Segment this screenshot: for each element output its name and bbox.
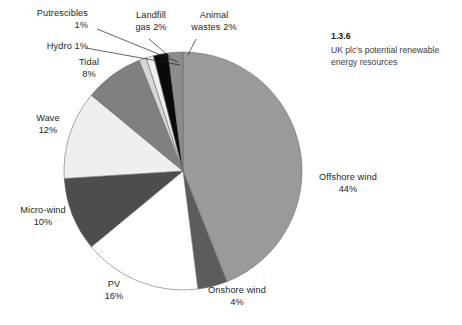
caption-number: 1.3.6	[331, 30, 455, 42]
label-wave: Wave 12%	[20, 113, 76, 136]
label-onshore-wind: Onshore wind 4%	[195, 285, 279, 308]
label-animal-wastes: Animal wastes 2%	[178, 10, 250, 33]
figure-renewable-energy-pie: Putrescibles 1% Hydro 1% Landfill gas 2%…	[0, 0, 462, 325]
label-pv: PV 16%	[94, 279, 134, 302]
label-landfill-gas: Landfill gas 2%	[120, 10, 182, 33]
pie-slices	[64, 52, 302, 290]
label-offshore-wind: Offshore wind 44%	[305, 172, 391, 195]
label-hydro: Hydro 1%	[4, 41, 88, 53]
label-tidal: Tidal 8%	[62, 57, 116, 80]
figure-caption: 1.3.6 UK plc's potential renewable energ…	[331, 30, 455, 68]
label-micro-wind: Micro-wind 10%	[6, 205, 80, 228]
caption-text: UK plc's potential renewable energy reso…	[331, 45, 439, 67]
label-putrescibles: Putrescibles 1%	[4, 8, 88, 31]
